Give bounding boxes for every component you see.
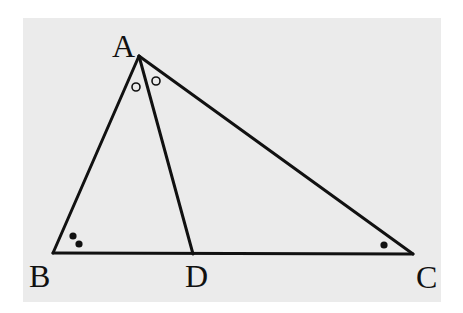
triangle-diagram: A B D C bbox=[0, 0, 463, 313]
angle-mark-b-dot-icon bbox=[75, 240, 82, 247]
vertex-label-d: D bbox=[185, 258, 208, 294]
side-ac bbox=[139, 56, 413, 254]
angle-mark-bad-circle-icon bbox=[132, 83, 140, 91]
angle-mark-c-dot-icon bbox=[380, 241, 387, 248]
vertex-label-b: B bbox=[29, 258, 50, 294]
side-bc bbox=[53, 253, 413, 254]
angle-mark-b-dot-icon bbox=[69, 232, 76, 239]
segment-ad bbox=[139, 56, 193, 254]
angle-mark-dac-circle-icon bbox=[152, 77, 160, 85]
side-ab bbox=[53, 56, 139, 253]
vertex-label-a: A bbox=[112, 28, 135, 64]
vertex-label-c: C bbox=[416, 259, 437, 295]
